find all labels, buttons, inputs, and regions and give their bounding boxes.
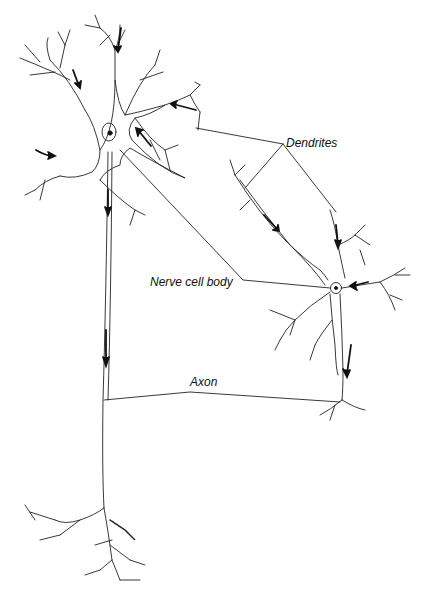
left-neuron — [20, 15, 200, 580]
leader-lines — [104, 128, 340, 402]
right-neuron — [230, 160, 410, 420]
neuron-diagram: Dendrites Nerve cell body Axon — [0, 0, 426, 606]
neuron-drawing — [0, 0, 426, 606]
label-axon: Axon — [190, 375, 217, 389]
flow-arrows — [36, 28, 368, 377]
label-nerve-cell-body: Nerve cell body — [150, 275, 233, 289]
label-dendrites: Dendrites — [286, 136, 337, 150]
